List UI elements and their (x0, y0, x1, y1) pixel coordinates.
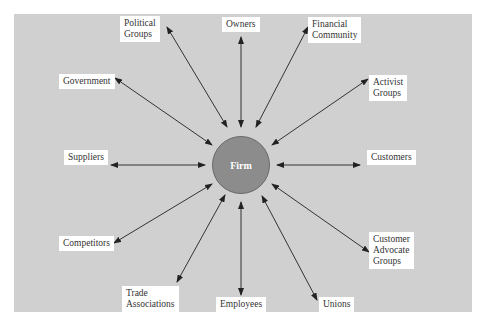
stakeholder-government: Government (59, 74, 115, 89)
firm-node: Firm (212, 136, 270, 194)
stakeholder-owners: Owners (222, 17, 260, 32)
stakeholder-customer-advocate-groups: CustomerAdvocateGroups (369, 232, 414, 269)
arrow-unions (262, 196, 317, 300)
stakeholder-employees: Employees (216, 297, 266, 312)
arrow-activist-groups (272, 79, 368, 145)
arrow-competitors (114, 184, 212, 243)
stakeholder-unions: Unions (319, 297, 354, 312)
arrow-political-groups (167, 27, 227, 127)
arrow-government (115, 78, 212, 145)
stakeholder-financial-community: FinancialCommunity (308, 17, 361, 43)
stakeholder-activist-groups: ActivistGroups (369, 75, 407, 101)
stakeholder-competitors: Competitors (59, 236, 114, 251)
arrow-financial-community (256, 27, 308, 127)
stakeholder-suppliers: Suppliers (64, 150, 108, 165)
stakeholder-customers: Customers (367, 150, 416, 165)
arrow-trade-associations (177, 195, 225, 282)
stakeholder-political-groups: PoliticalGroups (120, 16, 160, 42)
stakeholder-trade-associations: TradeAssociations (122, 286, 179, 312)
